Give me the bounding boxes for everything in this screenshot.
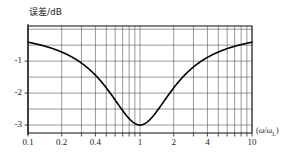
y-tick-label: -1 xyxy=(6,55,22,65)
y-tick-label: -2 xyxy=(6,87,22,97)
chart-figure: 误差/dB (ω/ωL) -1-2-3 0.10.20.412410 xyxy=(0,0,289,160)
y-tick-label: -3 xyxy=(6,119,22,129)
x-tick-label: 2 xyxy=(163,137,185,147)
paren-close: ) xyxy=(276,126,279,135)
x-tick-label: 10 xyxy=(241,137,263,147)
x-axis-title: (ω/ωL) xyxy=(256,126,279,137)
x-tick-label: 1 xyxy=(129,137,151,147)
x-tick-label: 4 xyxy=(196,137,218,147)
x-tick-label: 0.1 xyxy=(17,137,39,147)
plot-canvas xyxy=(0,0,289,160)
y-axis-title: 误差/dB xyxy=(29,5,62,18)
x-tick-label: 0.4 xyxy=(84,137,106,147)
x-tick-label: 0.2 xyxy=(51,137,73,147)
